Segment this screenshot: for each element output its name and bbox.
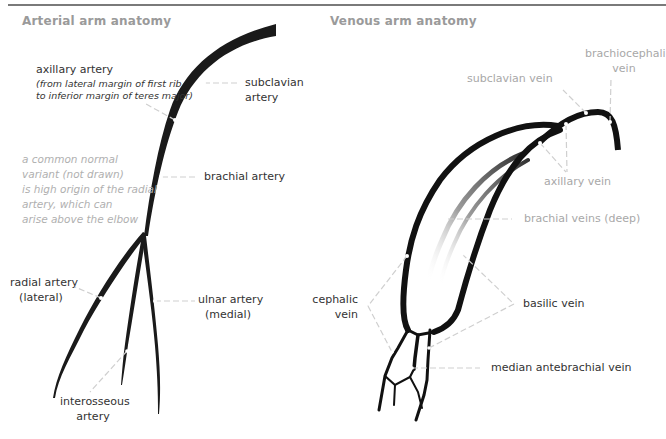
venous-title: Venous arm anatomy [330,14,477,28]
label-median-antebrachial-vein: median antebrachial vein [491,361,631,375]
note-variant-2: variant (not drawn) [22,167,124,182]
label-interosseous-artery-2: artery [60,410,126,424]
label-brachiocephalic-vein-2: vein [585,62,663,76]
note-variant-5: arise above the elbow [22,212,138,227]
label-basilic-vein: basilic vein [523,297,584,311]
label-cephalic-vein-2: vein [310,308,358,322]
label-radial-artery-1: radial artery [10,276,72,290]
label-cephalic-vein-1: cephalic [310,293,358,307]
label-subclavian-vein: subclavian vein [467,72,553,86]
label-brachial-artery: brachial artery [204,170,285,184]
label-subclavian-artery-1: subclavian [245,76,304,90]
note-variant-4: artery, which can [22,197,113,212]
label-radial-artery-2: (lateral) [10,291,72,305]
label-brachial-veins-deep: brachial veins (deep) [524,212,640,226]
label-brachiocephalic-vein-1: brachiocephalic [585,47,663,61]
label-axillary-note-1: (from lateral margin of first rib [36,78,182,90]
ulnar-artery [142,236,160,414]
label-interosseous-artery-1: interosseous [60,395,126,409]
label-axillary-vein: axillary vein [544,175,611,189]
label-ulnar-artery-2: (medial) [198,308,258,322]
arterial-trunk [144,24,276,236]
label-axillary-artery: axillary artery [36,63,113,77]
subclavian-arch [540,112,618,150]
note-variant-3: is high origin of the radial [22,182,157,197]
note-variant-1: a common normal [22,152,118,167]
label-axillary-note-2: to inferior margin of teres major) [36,90,193,102]
label-subclavian-artery-2: artery [245,91,278,105]
label-ulnar-artery-1: ulnar artery [198,293,258,307]
